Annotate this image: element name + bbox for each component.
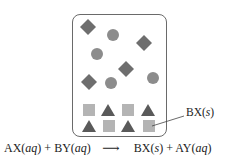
circle-icon (107, 29, 119, 41)
state-aq: aq (25, 141, 37, 155)
product-bx: BX (134, 141, 151, 155)
reactant-ax: AX (4, 141, 21, 155)
state-s: s (154, 141, 159, 155)
diamond-particles (80, 19, 152, 90)
precipitate-row-2 (82, 120, 155, 132)
reaction-equation: AX(aq) + BY(aq) ⟶ BX(s) + AY(aq) (4, 141, 212, 156)
circle-icon (105, 77, 117, 89)
circle-icon (91, 48, 103, 60)
diamond-icon (81, 74, 97, 90)
triangle-icon (141, 104, 155, 116)
precipitate-row-1 (83, 104, 155, 116)
circle-icon (147, 72, 159, 84)
diamond-icon (80, 19, 96, 35)
square-icon (103, 120, 115, 132)
circle-particles (91, 29, 159, 89)
reaction-arrow-icon: ⟶ (94, 141, 128, 156)
triangle-icon (121, 120, 135, 132)
triangle-icon (82, 120, 96, 132)
diamond-icon (136, 35, 152, 51)
reactant-by: BY (54, 141, 71, 155)
square-icon (122, 104, 134, 116)
state-aq: aq (75, 141, 87, 155)
precipitate-label: BX(s) (186, 106, 214, 118)
label-leader-line (152, 116, 184, 126)
product-ay: AY (175, 141, 191, 155)
square-icon (83, 104, 95, 116)
state-aq: aq (196, 141, 208, 155)
plus-sign: + (44, 141, 51, 155)
triangle-icon (101, 104, 115, 116)
diamond-icon (118, 61, 134, 77)
plus-sign: + (166, 141, 173, 155)
